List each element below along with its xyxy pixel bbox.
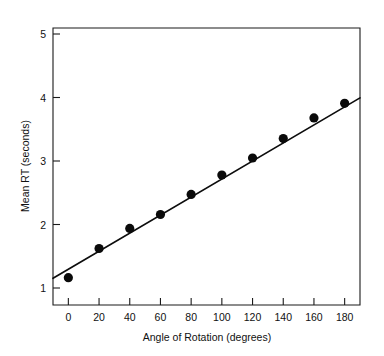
- y-tick-label-3: 3: [40, 155, 46, 167]
- data-point-group: [64, 99, 350, 283]
- y-tick-label-5: 5: [40, 28, 46, 40]
- data-point: [279, 134, 288, 143]
- x-tick-label-120: 120: [244, 311, 262, 323]
- y-tick-label-1: 1: [40, 282, 46, 294]
- x-tick-label-160: 160: [305, 311, 323, 323]
- x-axis-tick-labels: 0 20 40 60 80 100 120 140 160 180: [65, 311, 353, 323]
- x-tick-label-60: 60: [155, 311, 167, 323]
- x-tick-label-20: 20: [93, 311, 105, 323]
- y-axis-tick-labels: 5 4 3 2 1: [40, 28, 46, 294]
- data-point: [248, 153, 257, 162]
- data-point: [125, 224, 134, 233]
- x-tick-label-180: 180: [336, 311, 354, 323]
- data-point: [340, 99, 349, 108]
- y-axis-title: Mean RT (seconds): [19, 120, 31, 212]
- x-tick-label-0: 0: [65, 311, 71, 323]
- x-tick-label-100: 100: [213, 311, 231, 323]
- x-tick-label-80: 80: [185, 311, 197, 323]
- x-axis-ticks: [68, 298, 344, 305]
- data-point: [217, 170, 226, 179]
- scatter-plot-canvas: 5 4 3 2 1 0 20 40 60 80 100 120: [0, 0, 384, 356]
- axes-border: [53, 28, 360, 305]
- x-tick-label-40: 40: [124, 311, 136, 323]
- x-tick-label-140: 140: [274, 311, 292, 323]
- data-point: [156, 210, 165, 219]
- data-point: [187, 190, 196, 199]
- y-axis-ticks: [53, 34, 60, 288]
- chart-figure: 5 4 3 2 1 0 20 40 60 80 100 120: [0, 0, 384, 356]
- y-tick-label-4: 4: [40, 92, 46, 104]
- y-tick-label-2: 2: [40, 219, 46, 231]
- data-point: [309, 113, 318, 122]
- x-axis-title: Angle of Rotation (degrees): [143, 331, 271, 343]
- plot-frame: [53, 28, 360, 305]
- data-point: [94, 244, 103, 253]
- data-point: [64, 273, 73, 282]
